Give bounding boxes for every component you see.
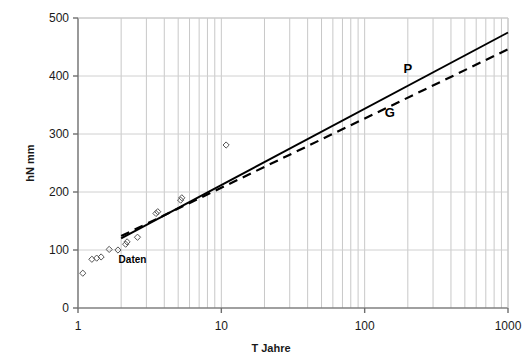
x-tick-label: 10 xyxy=(215,319,229,333)
x-axis-title: T Jahre xyxy=(251,342,290,354)
y-axis-title: hN mm xyxy=(24,144,36,182)
scatter-log-chart: 1101001000 0100200300400500 PGDaten T Ja… xyxy=(0,0,523,363)
annotation-daten: Daten xyxy=(119,254,147,265)
x-tick-label: 100 xyxy=(355,319,375,333)
chart-container: 1101001000 0100200300400500 PGDaten T Ja… xyxy=(0,0,523,363)
y-tick-label: 100 xyxy=(49,243,69,257)
y-tick-label: 500 xyxy=(49,11,69,25)
x-tick-label: 1000 xyxy=(495,319,522,333)
y-tick-label: 0 xyxy=(62,301,69,315)
y-tick-label: 300 xyxy=(49,127,69,141)
x-tick-label: 1 xyxy=(75,319,82,333)
y-tick-label: 400 xyxy=(49,69,69,83)
annotation-g: G xyxy=(385,105,395,120)
annotation-p: P xyxy=(403,61,412,76)
y-tick-label: 200 xyxy=(49,185,69,199)
